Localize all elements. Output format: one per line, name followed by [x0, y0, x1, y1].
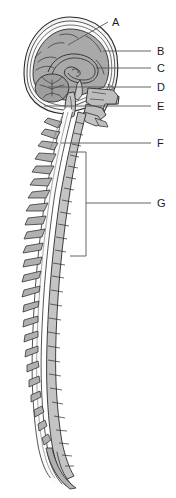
anatomy-illustration — [22, 17, 119, 489]
label-C: C — [157, 62, 165, 74]
label-F: F — [157, 137, 164, 149]
label-B: B — [157, 45, 165, 57]
label-A: A — [112, 16, 120, 28]
cns-diagram-figure: A B C D E F G — [0, 0, 176, 498]
label-letters-group: A B C D E F G — [112, 16, 166, 209]
cerebellum — [35, 74, 69, 102]
label-E: E — [157, 100, 165, 112]
facial-bones — [82, 84, 118, 127]
label-D: D — [157, 81, 165, 93]
cns-diagram-svg: A B C D E F G — [0, 0, 176, 498]
label-G: G — [157, 197, 166, 209]
